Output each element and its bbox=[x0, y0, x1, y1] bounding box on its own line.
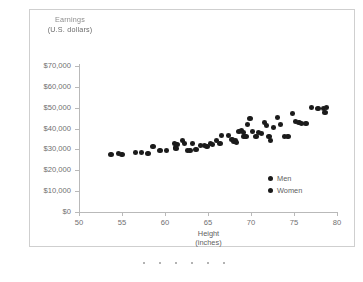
legend-item-women: Women bbox=[268, 184, 302, 196]
legend-marker-icon bbox=[268, 176, 273, 181]
data-point bbox=[271, 125, 276, 130]
legend-item-label: Women bbox=[277, 186, 302, 195]
x-axis-tick: 75 bbox=[294, 212, 295, 216]
chart-legend: MenWomen bbox=[268, 172, 302, 196]
data-point bbox=[309, 105, 314, 110]
data-point bbox=[150, 144, 155, 149]
data-point bbox=[259, 131, 264, 136]
footer-dot bbox=[143, 262, 145, 264]
legend-marker-icon bbox=[268, 188, 273, 193]
x-axis-tick: 80 bbox=[337, 212, 338, 216]
x-axis-tick: 50 bbox=[79, 212, 80, 216]
y-axis-tick-label: $40,000 bbox=[44, 124, 71, 133]
x-axis-tick: 60 bbox=[165, 212, 166, 216]
data-point bbox=[285, 134, 290, 139]
x-axis-title: Height (inches) bbox=[79, 229, 338, 247]
y-axis-tick-label: $20,000 bbox=[44, 165, 71, 174]
data-point bbox=[303, 121, 308, 126]
y-axis-title-line2: (U.S. dollars) bbox=[24, 25, 116, 35]
data-point bbox=[275, 115, 280, 120]
x-axis-tick-label: 75 bbox=[290, 218, 298, 227]
data-point bbox=[243, 134, 248, 139]
y-axis-title-line1: Earnings bbox=[24, 15, 116, 25]
y-axis-tick-label: $60,000 bbox=[44, 82, 71, 91]
x-axis-tick-label: 55 bbox=[118, 218, 126, 227]
data-point bbox=[145, 151, 150, 156]
data-point bbox=[173, 146, 178, 151]
x-axis-tick: 55 bbox=[122, 212, 123, 216]
x-axis-tick-label: 80 bbox=[333, 218, 341, 227]
data-point bbox=[157, 148, 162, 153]
data-point bbox=[324, 105, 329, 110]
data-point bbox=[174, 142, 179, 147]
data-point bbox=[193, 147, 198, 152]
x-axis-tick: 65 bbox=[208, 212, 209, 216]
data-point bbox=[278, 122, 283, 127]
data-point bbox=[247, 116, 252, 121]
data-point bbox=[217, 141, 222, 146]
data-point bbox=[245, 122, 250, 127]
x-axis-line: 50556065707580 bbox=[79, 212, 338, 213]
y-axis-tick-label: $70,000 bbox=[44, 61, 71, 70]
y-axis-title: Earnings (U.S. dollars) bbox=[24, 15, 116, 34]
footer-dot-row bbox=[143, 262, 225, 264]
x-axis-title-line1: Height bbox=[79, 229, 338, 238]
footer-dot bbox=[223, 262, 225, 264]
x-axis-tick-label: 65 bbox=[204, 218, 212, 227]
data-point bbox=[119, 152, 124, 157]
data-point bbox=[164, 148, 169, 153]
footer-dot bbox=[175, 262, 177, 264]
x-axis-title-line2: (inches) bbox=[79, 238, 338, 247]
footer-dot bbox=[207, 262, 209, 264]
data-point bbox=[187, 148, 192, 153]
data-point bbox=[219, 133, 224, 138]
data-point bbox=[139, 150, 144, 155]
y-axis-tick-label: $50,000 bbox=[44, 103, 71, 112]
x-axis-tick-label: 60 bbox=[161, 218, 169, 227]
footer-dot bbox=[191, 262, 193, 264]
data-point bbox=[290, 111, 295, 116]
x-axis-tick-label: 50 bbox=[75, 218, 83, 227]
data-point bbox=[133, 150, 138, 155]
data-point bbox=[234, 140, 239, 145]
data-point bbox=[108, 152, 113, 157]
scatter-plot-figure: Earnings (U.S. dollars) $0$10,000$20,000… bbox=[0, 0, 363, 282]
data-point bbox=[190, 141, 195, 146]
data-point bbox=[315, 106, 320, 111]
y-axis-tick-label: $30,000 bbox=[44, 144, 71, 153]
data-point bbox=[268, 138, 273, 143]
legend-item-men: Men bbox=[268, 172, 302, 184]
data-point bbox=[182, 141, 187, 146]
data-point bbox=[264, 123, 269, 128]
y-axis-tick-label: $0 bbox=[63, 207, 71, 216]
legend-item-label: Men bbox=[277, 174, 291, 183]
x-axis-tick-label: 70 bbox=[247, 218, 255, 227]
y-axis-tick-label: $10,000 bbox=[44, 186, 71, 195]
data-point bbox=[322, 110, 327, 115]
x-axis-tick: 70 bbox=[251, 212, 252, 216]
footer-dot bbox=[159, 262, 161, 264]
